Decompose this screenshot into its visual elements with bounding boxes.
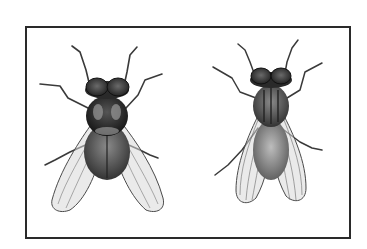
- left-fly-eye-right: [107, 78, 129, 96]
- right-fly-abdomen: [253, 120, 289, 180]
- right-fly-eye-right: [271, 68, 291, 84]
- right-fly: [213, 40, 322, 203]
- right-fly-eye-left: [251, 68, 271, 84]
- flies-illustration: [0, 0, 367, 249]
- left-fly: [40, 46, 164, 212]
- left-fly-eye-left: [86, 78, 108, 96]
